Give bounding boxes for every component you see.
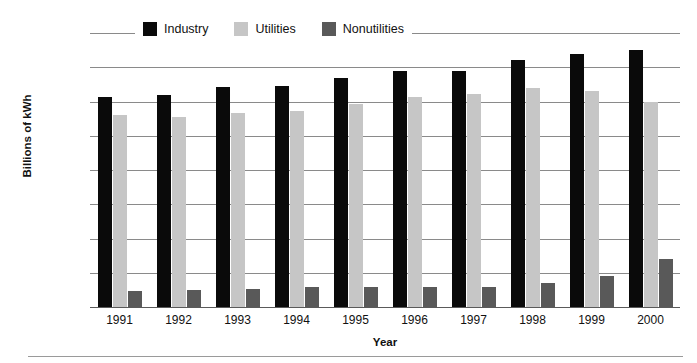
x-tick-label-1992: 1992 xyxy=(149,313,208,327)
x-axis-label: Year xyxy=(90,336,680,348)
x-tick-label-1994: 1994 xyxy=(267,313,326,327)
bar-group-1999 xyxy=(562,33,621,307)
x-tick-label-1999: 1999 xyxy=(562,313,621,327)
bar-nonutilities-1991[interactable] xyxy=(128,291,142,307)
legend-swatch-utilities xyxy=(234,22,248,36)
bar-utilities-1991[interactable] xyxy=(113,115,127,307)
legend-label-industry: Industry xyxy=(164,23,208,36)
bar-industry-1991[interactable] xyxy=(98,97,112,307)
bar-group-1995 xyxy=(326,33,385,307)
x-tick-label-1996: 1996 xyxy=(385,313,444,327)
bar-nonutilities-1998[interactable] xyxy=(541,283,555,307)
bar-group-1991 xyxy=(90,33,149,307)
bar-nonutilities-1996[interactable] xyxy=(423,287,437,307)
bar-nonutilities-1994[interactable] xyxy=(305,287,319,307)
bar-nonutilities-2000[interactable] xyxy=(659,259,673,307)
x-tick-label-1991: 1991 xyxy=(90,313,149,327)
bar-group-1997 xyxy=(444,33,503,307)
legend-item-nonutilities[interactable]: Nonutilities xyxy=(322,22,404,36)
legend-item-utilities[interactable]: Utilities xyxy=(234,22,295,36)
legend-label-nonutilities: Nonutilities xyxy=(343,23,404,36)
bar-industry-1994[interactable] xyxy=(275,86,289,307)
bar-nonutilities-1992[interactable] xyxy=(187,290,201,307)
bar-utilities-1994[interactable] xyxy=(290,111,304,307)
gridline-0 xyxy=(90,307,680,308)
x-tick-label-1997: 1997 xyxy=(444,313,503,327)
bar-group-1996 xyxy=(385,33,444,307)
bar-industry-1998[interactable] xyxy=(511,60,525,307)
plot-area: 05001000150020002500300035004000 xyxy=(90,33,680,307)
bars-layer xyxy=(90,33,680,307)
bar-industry-1996[interactable] xyxy=(393,71,407,307)
bar-nonutilities-1995[interactable] xyxy=(364,287,378,307)
bar-group-1993 xyxy=(208,33,267,307)
x-axis-tick-labels: 1991199219931994199519961997199819992000 xyxy=(90,313,680,327)
y-axis-label: Billions of kWh xyxy=(21,76,33,196)
bar-group-1992 xyxy=(149,33,208,307)
legend-swatch-industry xyxy=(143,22,157,36)
bar-nonutilities-1999[interactable] xyxy=(600,276,614,307)
bar-industry-2000[interactable] xyxy=(629,50,643,307)
bar-group-1998 xyxy=(503,33,562,307)
legend-swatch-nonutilities xyxy=(322,22,336,36)
bar-utilities-1993[interactable] xyxy=(231,113,245,307)
x-tick-label-1998: 1998 xyxy=(503,313,562,327)
chart-legend: Industry Utilities Nonutilities xyxy=(135,20,412,38)
bar-utilities-1992[interactable] xyxy=(172,117,186,307)
bar-utilities-2000[interactable] xyxy=(644,102,658,307)
bar-chart-figure: Industry Utilities Nonutilities Billions… xyxy=(0,0,697,363)
bar-group-1994 xyxy=(267,33,326,307)
bar-utilities-1997[interactable] xyxy=(467,94,481,307)
bar-utilities-1996[interactable] xyxy=(408,97,422,307)
legend-item-industry[interactable]: Industry xyxy=(143,22,208,36)
x-tick-label-2000: 2000 xyxy=(621,313,680,327)
legend-label-utilities: Utilities xyxy=(255,23,295,36)
footer-rule xyxy=(28,356,683,357)
bar-utilities-1995[interactable] xyxy=(349,104,363,307)
x-tick-label-1995: 1995 xyxy=(326,313,385,327)
bar-utilities-1999[interactable] xyxy=(585,91,599,307)
bar-nonutilities-1993[interactable] xyxy=(246,289,260,307)
bar-utilities-1998[interactable] xyxy=(526,88,540,307)
bar-industry-1997[interactable] xyxy=(452,71,466,307)
bar-industry-1995[interactable] xyxy=(334,78,348,307)
bar-group-2000 xyxy=(621,33,680,307)
bar-nonutilities-1997[interactable] xyxy=(482,287,496,307)
bar-industry-1999[interactable] xyxy=(570,54,584,307)
bar-industry-1992[interactable] xyxy=(157,95,171,307)
x-tick-label-1993: 1993 xyxy=(208,313,267,327)
bar-industry-1993[interactable] xyxy=(216,87,230,307)
